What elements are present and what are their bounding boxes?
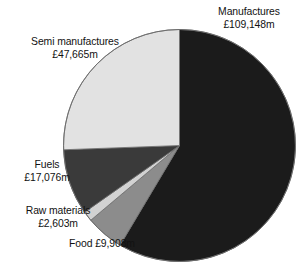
pie-label-semi-manufactures: Semi manufactures £47,665m: [13, 36, 137, 61]
pie-label-semi-manufactures-name: Semi manufactures: [13, 36, 137, 49]
pie-label-semi-manufactures-value: £47,665m: [13, 49, 137, 62]
pie-label-fuels-value: £17,076m: [6, 172, 88, 185]
pie-label-manufactures: Manufactures £109,148m: [196, 6, 302, 31]
pie-label-raw-materials-name: Raw materials: [6, 205, 110, 218]
pie-chart: Manufactures £109,148m Semi manufactures…: [0, 0, 307, 279]
pie-label-manufactures-value: £109,148m: [196, 19, 302, 32]
pie-label-food-name: Food £9,908m: [44, 238, 160, 251]
pie-label-manufactures-name: Manufactures: [196, 6, 302, 19]
pie-label-raw-materials: Raw materials £2,603m: [6, 205, 110, 230]
pie-label-fuels-name: Fuels: [6, 159, 88, 172]
pie-label-raw-materials-value: £2,603m: [6, 218, 110, 231]
pie-label-food: Food £9,908m: [44, 238, 160, 251]
pie-label-fuels: Fuels £17,076m: [6, 159, 88, 184]
